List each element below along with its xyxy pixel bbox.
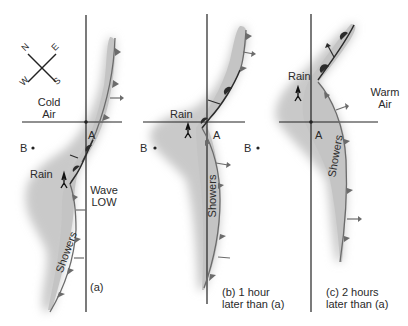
panel-c-point-a: A: [315, 129, 322, 141]
panel-a-caption: (a): [90, 281, 103, 293]
wave-low-line-2: LOW: [90, 196, 118, 208]
panel-b: [143, 14, 260, 304]
panel-c-caption: (c) 2 hours later than (a): [326, 286, 388, 310]
panel-b-caption-line-1: (b) 1 hour: [222, 286, 284, 298]
panel-a-point-a: A: [88, 129, 95, 141]
panel-b-rain-label: Rain: [170, 108, 193, 120]
panel-b-point-a: A: [213, 129, 220, 141]
panel-b-caption-line-2: later than (a): [222, 298, 284, 310]
cold-air-line-2: Air: [34, 108, 64, 120]
panel-a-rain-label: Rain: [30, 168, 53, 180]
panel-c-rain-label: Rain: [288, 70, 311, 82]
panel-a-wave-low-label: Wave LOW: [90, 184, 118, 208]
panel-c-warm-air-label: Warm Air: [370, 86, 400, 110]
panel-a-point-b: B: [20, 142, 27, 154]
warm-air-line-2: Air: [370, 98, 400, 110]
panel-c-caption-line-1: (c) 2 hours: [326, 286, 388, 298]
panel-b-point-b-right: B: [244, 142, 251, 154]
panel-a-cold-air-label: Cold Air: [34, 96, 64, 120]
wave-cyclone-diagram: N E W S Cold Air A B Rain Wave LOW Showe…: [0, 0, 408, 326]
panel-b-showers-label: Showers: [206, 172, 218, 220]
cold-air-line-1: Cold: [34, 96, 64, 108]
panel-b-caption: (b) 1 hour later than (a): [222, 286, 284, 310]
warm-air-line-1: Warm: [370, 86, 400, 98]
compass-rose: N E W S: [18, 44, 66, 92]
panel-c-caption-line-2: later than (a): [326, 298, 388, 310]
wave-low-line-1: Wave: [90, 184, 118, 196]
panel-b-point-b-left: B: [140, 142, 147, 154]
